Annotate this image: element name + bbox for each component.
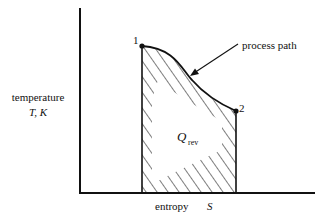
process-path-label: process path (242, 39, 297, 51)
svg-text:rev: rev (188, 138, 198, 147)
point-2-marker (233, 108, 238, 113)
x-axis-label: entropy (155, 200, 189, 212)
point-2-label: 2 (239, 102, 245, 114)
x-axis-symbol: S (207, 200, 213, 212)
point-1-marker (139, 43, 144, 48)
svg-text:Q: Q (177, 129, 187, 144)
arrow-icon (190, 44, 238, 76)
y-axis-label-line1: temperature (12, 91, 65, 103)
hatched-area (130, 40, 250, 200)
point-1-label: 1 (133, 34, 139, 46)
y-axis-label-line2: T, K (29, 106, 48, 118)
ts-diagram: 1 2 process path temperature T, K entrop… (0, 0, 332, 223)
